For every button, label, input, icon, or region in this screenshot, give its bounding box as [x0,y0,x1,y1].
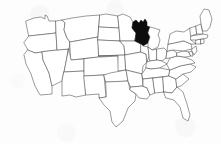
state-wa: Washington [26,15,56,36]
us-map-svg: WashingtonOregonCaliforniaNevadaIdahoMon… [0,0,221,144]
state-al: Alabama [153,77,164,93]
state-or: Oregon [24,33,57,53]
state-mi: Michigan [148,27,160,50]
state-ky: Kentucky [146,60,167,69]
state-me: Maine [200,9,212,31]
state-sd: South Dakota [98,27,120,41]
states-layer: WashingtonOregonCaliforniaNevadaIdahoMon… [24,9,212,127]
state-az: Arizona [62,71,86,97]
us-map-figure: WashingtonOregonCaliforniaNevadaIdahoMon… [0,0,221,144]
state-ri: Rhode Island [201,39,204,44]
state-nm: New Mexico [84,75,106,98]
state-oh: Ohio [157,48,167,61]
state-nd: North Dakota [99,14,119,28]
